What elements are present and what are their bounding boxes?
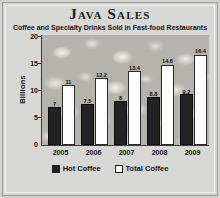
- x-label-2005: 2005: [44, 148, 77, 157]
- chart-title: Java Sales: [0, 6, 220, 22]
- bar-hot-2006: [81, 104, 94, 145]
- legend-item-total-coffee: Total Coffee: [115, 164, 169, 173]
- bar-total-2007: [128, 71, 141, 145]
- y-tick-5: 5: [22, 114, 38, 121]
- y-tick-0: 0: [22, 141, 38, 148]
- java-sales-chart-figure: Java Sales Coffee and Specialty Drinks S…: [0, 0, 220, 198]
- bar-label-total-2008: 14.6: [158, 58, 177, 64]
- bar-label-total-2006: 12.2: [92, 72, 111, 78]
- chart-subtitle: Coffee and Specialty Drinks Sold in Fast…: [0, 23, 220, 32]
- y-tick-10: 10: [22, 87, 38, 94]
- legend-item-hot-coffee: Hot Coffee: [52, 164, 101, 173]
- legend-swatch-total-coffee-icon: [115, 165, 123, 173]
- y-tick-20: 20: [22, 33, 38, 40]
- bar-label-total-2009: 16.4: [191, 48, 209, 54]
- x-label-2008: 2008: [143, 148, 176, 157]
- y-tick-15: 15: [22, 60, 38, 67]
- legend-swatch-hot-coffee-icon: [52, 165, 60, 173]
- bar-total-2009: [194, 55, 207, 145]
- x-label-2007: 2007: [110, 148, 143, 157]
- bar-total-2005: [62, 85, 75, 146]
- bar-hot-2007: [114, 101, 127, 145]
- plot-area: 7 11 7.5 12.2 8 13.4 8.8 14.6 9.2 16.4: [41, 35, 209, 146]
- bar-total-2006: [95, 78, 108, 145]
- bar-hot-2005: [48, 107, 61, 146]
- x-label-2009: 2009: [176, 148, 209, 157]
- x-axis-labels: 2005 2006 2007 2008 2009: [41, 148, 209, 160]
- bar-hot-2008: [147, 97, 160, 145]
- chart-area: Billions 20 15 10 5 0 7 11 7.5 12.2 8: [8, 33, 212, 193]
- bar-label-total-2005: 11: [59, 79, 78, 85]
- bar-hot-2009: [180, 94, 193, 145]
- bar-total-2008: [161, 65, 174, 145]
- y-axis-ticks: 20 15 10 5 0: [20, 33, 38, 146]
- x-label-2006: 2006: [77, 148, 110, 157]
- legend-label-hot-coffee: Hot Coffee: [63, 164, 101, 173]
- bar-label-total-2007: 13.4: [125, 65, 144, 71]
- chart-legend: Hot Coffee Total Coffee: [8, 164, 212, 173]
- legend-label-total-coffee: Total Coffee: [126, 164, 169, 173]
